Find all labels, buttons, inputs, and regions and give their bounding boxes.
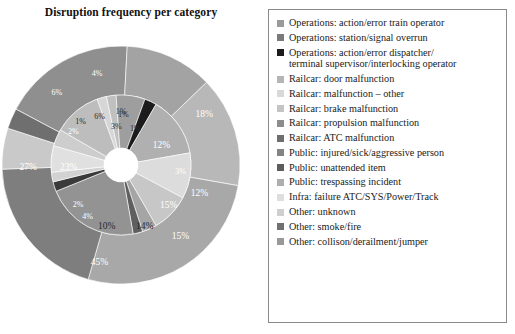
pie-slice-label: 15% [172, 231, 190, 241]
legend-swatch-icon [277, 105, 284, 112]
legend-item[interactable]: Operations: station/signal overrun [277, 32, 500, 44]
legend-swatch-icon [277, 34, 284, 41]
legend-item-label: Operations: action/error dispatcher/ ter… [289, 47, 456, 70]
legend-item[interactable]: Other: unknown [277, 206, 500, 218]
legend-swatch-icon [277, 20, 284, 27]
pie-slice-label: 18% [196, 109, 214, 119]
legend-item[interactable]: Other: collison/derailment/jumper [277, 236, 500, 248]
pie-slice-label: 1% [130, 124, 141, 133]
pie-slice-label: 12% [153, 140, 171, 150]
pie-slice-label: 10% [98, 221, 116, 231]
pie-slice-label: 45% [91, 257, 109, 267]
legend-item[interactable]: Public: unattended item [277, 162, 500, 174]
pie-slice-label: 27% [19, 162, 37, 172]
pie-slice-label: 1% [116, 107, 127, 116]
pie-slice-label: 12% [191, 188, 209, 198]
legend-item[interactable]: Public: injured/sick/aggressive person [277, 147, 500, 159]
legend-swatch-icon [277, 164, 284, 171]
legend-item[interactable]: Public: trespassing incident [277, 176, 500, 188]
legend-item-label: Public: injured/sick/aggressive person [289, 147, 444, 159]
legend-item-label: Operations: action/error train operator [289, 17, 444, 29]
legend-list: Operations: action/error train operatorO… [277, 17, 500, 247]
legend-swatch-icon [277, 194, 284, 201]
legend-swatch-icon [277, 223, 284, 230]
legend-swatch-icon [277, 135, 284, 142]
chart-root: Disruption frequency per category 18%12%… [0, 0, 515, 334]
legend-item-label: Other: smoke/fire [289, 221, 361, 233]
legend: Operations: action/error train operatorO… [268, 9, 507, 323]
legend-item[interactable]: Infra: failure ATC/SYS/Power/Track [277, 191, 500, 203]
legend-swatch-icon [277, 179, 284, 186]
pie-slice-label: 23% [60, 162, 78, 172]
legend-swatch-icon [277, 49, 284, 56]
legend-item[interactable]: Operations: action/error train operator [277, 17, 500, 29]
legend-item-label: Public: unattended item [289, 162, 386, 174]
pie-chart-svg: 18%12%15%45%27%6%4%1%1%12%3%15%14%10%4%2… [0, 22, 262, 334]
pie-slice-label: 6% [94, 112, 105, 121]
legend-swatch-icon [277, 120, 284, 127]
pie-slice-label: 4% [92, 69, 103, 78]
legend-item[interactable]: Railcar: propulsion malfunction [277, 117, 500, 129]
pie-slice-label: 2% [73, 200, 84, 209]
legend-swatch-icon [277, 238, 284, 245]
legend-item-label: Railcar: door malfunction [289, 73, 394, 85]
legend-item-label: Railcar: malfunction – other [289, 88, 404, 100]
legend-swatch-icon [277, 76, 284, 83]
legend-item[interactable]: Railcar: malfunction – other [277, 88, 500, 100]
legend-item[interactable]: Railcar: ATC malfunction [277, 132, 500, 144]
legend-item[interactable]: Railcar: brake malfunction [277, 103, 500, 115]
legend-swatch-icon [277, 209, 284, 216]
pie-slice-label: 1% [75, 117, 86, 126]
pie-chart: 18%12%15%45%27%6%4%1%1%12%3%15%14%10%4%2… [0, 22, 262, 334]
pie-slice-label: 3% [111, 122, 122, 131]
legend-item-label: Infra: failure ATC/SYS/Power/Track [289, 191, 439, 203]
legend-swatch-icon [277, 90, 284, 97]
pie-slice-label: 3% [175, 167, 186, 176]
legend-item-label: Operations: station/signal overrun [289, 32, 428, 44]
legend-item[interactable]: Railcar: door malfunction [277, 73, 500, 85]
legend-item-label: Railcar: ATC malfunction [289, 132, 394, 144]
pie-slice-label: 15% [160, 200, 178, 210]
legend-swatch-icon [277, 149, 284, 156]
legend-item-label: Other: collison/derailment/jumper [289, 236, 428, 248]
legend-item-label: Railcar: propulsion malfunction [289, 117, 419, 129]
donut-center-hole [104, 148, 138, 182]
legend-item-label: Public: trespassing incident [289, 176, 401, 188]
pie-slice-label: 2% [68, 127, 79, 136]
page-title: Disruption frequency per category [0, 6, 262, 18]
pie-slice-label: 6% [51, 88, 62, 97]
legend-item[interactable]: Other: smoke/fire [277, 221, 500, 233]
pie-slice-label: 14% [136, 221, 154, 231]
pie-slice-label: 4% [82, 212, 93, 221]
legend-item-label: Other: unknown [289, 206, 356, 218]
legend-item[interactable]: Operations: action/error dispatcher/ ter… [277, 47, 500, 70]
legend-item-label: Railcar: brake malfunction [289, 103, 398, 115]
